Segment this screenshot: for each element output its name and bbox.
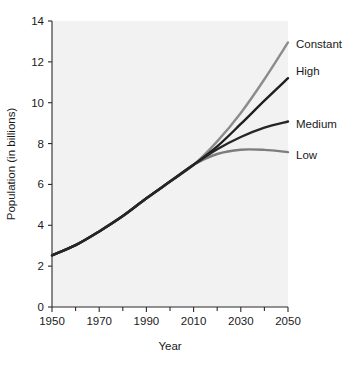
y-tick-label: 14 (31, 15, 44, 27)
x-tick-label: 1970 (86, 315, 112, 327)
population-projection-chart: 02468101214 195019701990201020302050 Con… (0, 0, 354, 366)
y-tick-label: 0 (38, 301, 44, 313)
series-label-constant: Constant (296, 38, 343, 50)
series-label-high: High (296, 65, 320, 77)
y-axis-title: Population (in billions) (5, 108, 17, 221)
series-label-low: Low (296, 149, 318, 161)
y-tick-label: 4 (38, 219, 45, 231)
x-tick-label: 2030 (228, 315, 254, 327)
x-tick-label: 1990 (134, 315, 160, 327)
x-axis-ticks (52, 307, 288, 312)
y-axis-ticks (48, 21, 52, 307)
y-tick-label: 12 (31, 56, 44, 68)
x-tick-label: 2010 (181, 315, 207, 327)
y-axis-tick-labels: 02468101214 (31, 15, 44, 313)
y-tick-label: 8 (38, 138, 44, 150)
chart-svg: 02468101214 195019701990201020302050 Con… (0, 0, 354, 366)
series-label-medium: Medium (296, 118, 337, 130)
y-tick-label: 10 (31, 97, 44, 109)
y-tick-label: 6 (38, 178, 44, 190)
y-tick-label: 2 (38, 260, 44, 272)
x-tick-label: 2050 (275, 315, 301, 327)
x-axis-tick-labels: 195019701990201020302050 (39, 315, 301, 327)
plot-background (52, 21, 288, 307)
x-axis-title: Year (158, 340, 181, 352)
x-tick-label: 1950 (39, 315, 65, 327)
series-labels: ConstantHighMediumLow (296, 38, 343, 161)
